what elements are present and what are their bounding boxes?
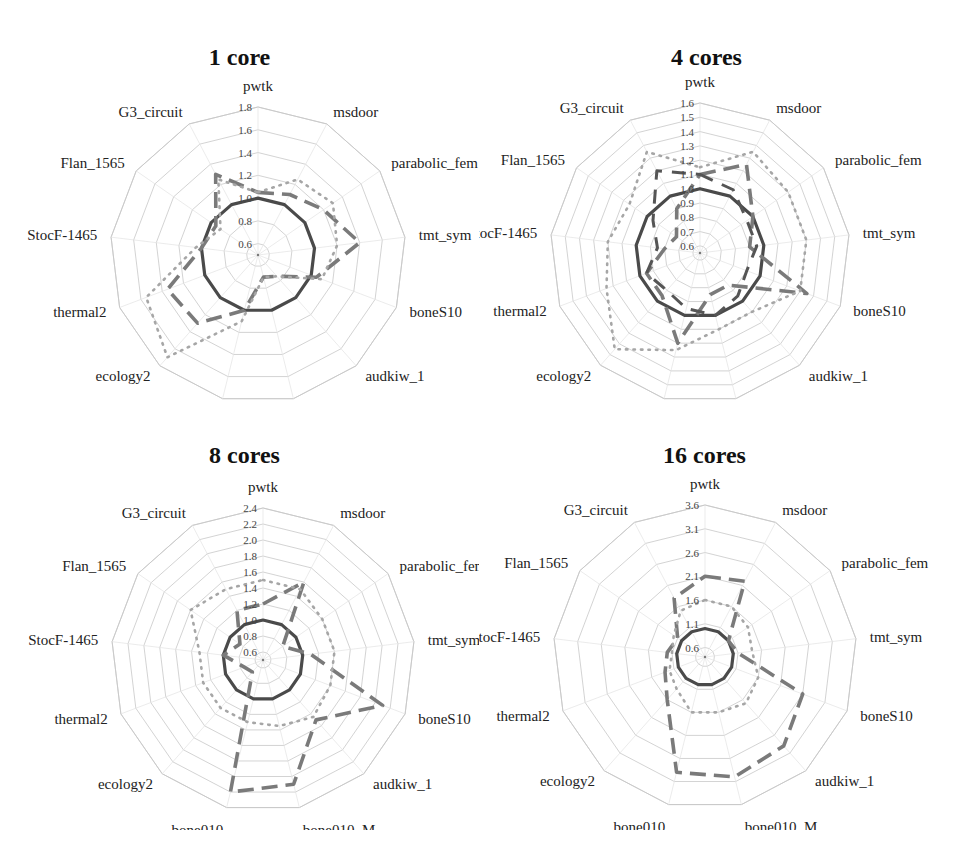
axis-spoke	[258, 124, 327, 255]
category-label-ecology2: ecology2	[96, 368, 151, 384]
category-label-pwtk: pwtk	[248, 479, 279, 495]
category-label-bone010: bone010	[614, 819, 666, 830]
category-label-audkiw_1: audkiw_1	[365, 368, 424, 384]
category-label-flan_1565: Flan_1565	[504, 555, 568, 571]
category-label-g3_circuit: G3_circuit	[119, 104, 184, 120]
category-label-parabolic_fem: parabolic_fem	[400, 558, 479, 574]
chart-panel-4-cores: 4 cores 0.60.70.80.91.01.11.21.31.41.51.…	[479, 0, 958, 410]
radial-tick-label: 1.6	[238, 124, 252, 136]
category-label-bone010_m: bone010_M	[745, 819, 818, 830]
category-label-audkiw_1: audkiw_1	[815, 773, 874, 789]
center-point	[704, 656, 706, 658]
category-label-bones10: boneS10	[418, 711, 471, 727]
category-label-pwtk: pwtk	[243, 78, 274, 94]
radial-tick-label: 2.6	[685, 547, 699, 559]
center-point	[262, 659, 264, 661]
category-label-pwtk: pwtk	[685, 74, 716, 90]
radial-tick-label: 0.6	[243, 646, 257, 658]
radial-tick-label: 0.7	[680, 226, 694, 238]
axis-spoke	[664, 253, 700, 399]
radial-tick-label: 1.0	[238, 192, 252, 204]
axis-spoke	[705, 657, 847, 711]
radar-chart-8-cores: 0.60.81.01.21.41.61.82.02.22.4pwtkmsdoor…	[0, 420, 479, 830]
radial-tick-label: 1.6	[680, 97, 694, 109]
radial-tick-label: 1.4	[238, 147, 252, 159]
category-label-audkiw_1: audkiw_1	[373, 776, 432, 792]
category-label-parabolic_fem: parabolic_fem	[842, 555, 929, 571]
radial-tick-label: 0.8	[243, 630, 257, 642]
chart-panel-1-core: 1 core 0.60.81.01.21.41.61.8pwtkmsdoorpa…	[0, 0, 479, 410]
radial-tick-label: 0.6	[680, 240, 694, 252]
category-label-bone010_m: bone010_M	[303, 822, 376, 830]
radial-tick-label: 3.1	[685, 523, 699, 535]
axis-spoke	[705, 657, 806, 771]
category-label-thermal2: thermal2	[496, 708, 549, 724]
axis-spoke	[700, 253, 799, 365]
radial-tick-label: 1.1	[685, 618, 699, 630]
category-label-ecology2: ecology2	[98, 776, 153, 792]
center-point	[257, 254, 259, 256]
axis-spoke	[162, 660, 263, 774]
category-label-bones10: boneS10	[853, 303, 906, 319]
radar-chart-4-cores: 0.60.70.80.91.01.11.21.31.41.51.6pwtkmsd…	[479, 0, 958, 410]
radial-tick-label: 3.6	[685, 499, 699, 511]
category-label-g3_circuit: G3_circuit	[560, 100, 625, 116]
radial-tick-label: 1.2	[243, 598, 257, 610]
radial-tick-label: 2.1	[685, 570, 699, 582]
series-line-series-dotted	[146, 179, 337, 357]
category-label-stocf-1465: StocF-1465	[479, 629, 540, 645]
category-label-msdoor: msdoor	[333, 104, 378, 120]
radial-tick-label: 1.6	[243, 566, 257, 578]
radial-tick-label: 1.2	[238, 169, 252, 181]
axis-spoke	[700, 253, 840, 306]
radial-tick-label: 1.1	[680, 168, 694, 180]
category-label-parabolic_fem: parabolic_fem	[391, 155, 478, 171]
radar-chart-1-core: 0.60.81.01.21.41.61.8pwtkmsdoorparabolic…	[0, 0, 479, 410]
category-label-bone010: bone010	[172, 822, 224, 830]
radial-tick-label: 2.4	[243, 502, 257, 514]
category-label-msdoor: msdoor	[776, 100, 821, 116]
category-label-audkiw_1: audkiw_1	[809, 368, 868, 384]
radial-tick-label: 1.0	[243, 614, 257, 626]
axis-spoke	[604, 657, 705, 771]
category-label-msdoor: msdoor	[782, 502, 827, 518]
axis-spoke	[560, 253, 700, 306]
radial-tick-label: 0.6	[685, 642, 699, 654]
axis-spoke	[563, 657, 705, 711]
category-label-flan_1565: Flan_1565	[61, 155, 125, 171]
series-line-series-dark-dashed	[647, 171, 757, 316]
category-label-flan_1565: Flan_1565	[62, 558, 126, 574]
radial-tick-label: 0.9	[680, 197, 694, 209]
radial-tick-label: 1.3	[680, 140, 694, 152]
category-label-ecology2: ecology2	[540, 773, 595, 789]
category-label-msdoor: msdoor	[340, 505, 385, 521]
axis-spoke	[705, 522, 776, 657]
category-label-g3_circuit: G3_circuit	[564, 502, 629, 518]
category-label-flan_1565: Flan_1565	[501, 152, 565, 168]
category-label-thermal2: thermal2	[493, 303, 546, 319]
category-label-tmt_sym: tmt_sym	[419, 227, 472, 243]
category-label-pwtk: pwtk	[690, 476, 721, 492]
figure-caption-strip	[0, 836, 958, 856]
radial-tick-label: 1.0	[680, 183, 694, 195]
radial-tick-label: 1.4	[680, 126, 694, 138]
category-label-tmt_sym: tmt_sym	[870, 629, 923, 645]
category-label-stocf-1465: StocF-1465	[27, 227, 97, 243]
category-label-thermal2: thermal2	[53, 304, 106, 320]
radial-tick-label: 2.2	[243, 518, 257, 530]
chart-panel-16-cores: 16 cores 0.61.11.62.12.63.13.6pwtkmsdoor…	[479, 420, 958, 830]
category-label-tmt_sym: tmt_sym	[863, 225, 916, 241]
axis-spoke	[700, 253, 736, 399]
radial-tick-label: 0.6	[238, 238, 252, 250]
category-label-bones10: boneS10	[860, 708, 913, 724]
axis-spoke	[121, 660, 263, 714]
radial-tick-label: 1.8	[238, 101, 252, 113]
category-label-thermal2: thermal2	[54, 711, 107, 727]
category-label-parabolic_fem: parabolic_fem	[835, 152, 922, 168]
category-label-stocf-1465: StocF-1465	[28, 632, 98, 648]
category-label-stocf-1465: StocF-1465	[479, 225, 537, 241]
axis-spoke	[634, 522, 705, 657]
radial-tick-label: 1.6	[685, 594, 699, 606]
category-label-bones10: boneS10	[409, 304, 462, 320]
category-label-g3_circuit: G3_circuit	[122, 505, 187, 521]
